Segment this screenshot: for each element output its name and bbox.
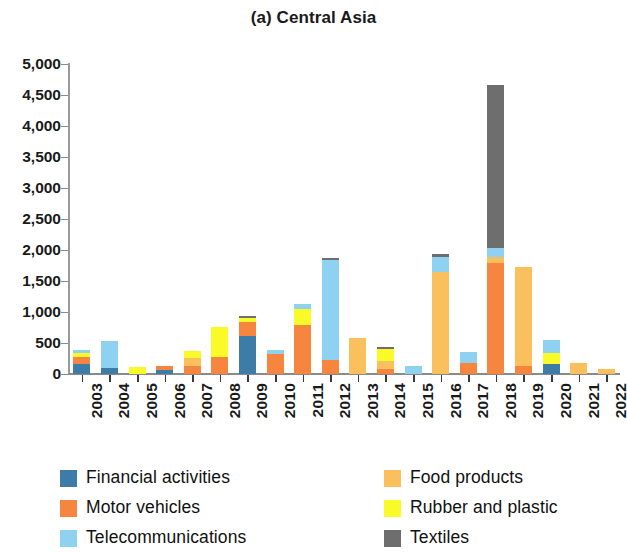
- y-tick-label: 1,000: [1, 303, 61, 321]
- legend-label: Textiles: [410, 529, 469, 547]
- bar-column-2013[interactable]: [349, 64, 366, 374]
- bar-segment[interactable]: [156, 370, 173, 374]
- bar-segment[interactable]: [184, 366, 201, 374]
- bar-segment[interactable]: [598, 369, 615, 374]
- bar-segment[interactable]: [294, 325, 311, 374]
- bar-column-2020[interactable]: [543, 64, 560, 374]
- y-tick-label: 3,000: [1, 179, 61, 197]
- bar-segment[interactable]: [294, 304, 311, 309]
- bar-segment[interactable]: [211, 357, 228, 374]
- bar-segment[interactable]: [460, 352, 477, 363]
- chart-legend: Financial activitiesMotor vehiclesTeleco…: [52, 463, 612, 549]
- legend-item[interactable]: Telecommunications: [60, 523, 335, 553]
- bar-segment[interactable]: [322, 258, 339, 260]
- bar-segment[interactable]: [487, 85, 504, 247]
- legend-item[interactable]: Textiles: [384, 523, 627, 553]
- legend-column-left: Financial activitiesMotor vehiclesTeleco…: [60, 463, 335, 553]
- legend-item[interactable]: Financial activities: [60, 463, 335, 493]
- bar-segment[interactable]: [487, 248, 504, 257]
- bar-segment[interactable]: [73, 364, 90, 374]
- y-tick-label: 4,000: [1, 117, 61, 135]
- bar-segment[interactable]: [101, 341, 118, 368]
- legend-swatch-financial-activities: [60, 470, 77, 487]
- bar-segment[interactable]: [432, 272, 449, 374]
- bar-segment[interactable]: [377, 361, 394, 369]
- bar-segment[interactable]: [239, 322, 256, 336]
- x-tick-label-2006: 2006: [171, 383, 189, 453]
- bar-segment[interactable]: [239, 316, 256, 318]
- bar-column-2015[interactable]: [405, 64, 422, 374]
- bar-segment[interactable]: [515, 267, 532, 366]
- bar-column-2003[interactable]: [73, 64, 90, 374]
- bar-segment[interactable]: [267, 350, 284, 353]
- bar-column-2009[interactable]: [239, 64, 256, 374]
- bar-segment[interactable]: [267, 354, 284, 374]
- bar-segment[interactable]: [211, 327, 228, 357]
- x-tick-mark: [358, 375, 360, 382]
- bar-segment[interactable]: [101, 368, 118, 374]
- bar-column-2004[interactable]: [101, 64, 118, 374]
- bar-column-2014[interactable]: [377, 64, 394, 374]
- x-tick-label-2008: 2008: [226, 383, 244, 453]
- x-tick-mark: [275, 375, 277, 382]
- x-tick-mark: [220, 375, 222, 382]
- bar-segment[interactable]: [405, 366, 422, 374]
- bar-column-2007[interactable]: [184, 64, 201, 374]
- x-tick-mark: [579, 375, 581, 382]
- y-tick-mark: [61, 374, 68, 375]
- bar-segment[interactable]: [570, 363, 587, 374]
- bar-segment[interactable]: [322, 360, 339, 374]
- bar-column-2011[interactable]: [294, 64, 311, 374]
- bar-segment[interactable]: [432, 257, 449, 273]
- bar-segment[interactable]: [129, 367, 146, 374]
- legend-item[interactable]: Food products: [384, 463, 627, 493]
- bar-column-2022[interactable]: [598, 64, 615, 374]
- bar-segment[interactable]: [543, 340, 560, 353]
- bar-segment[interactable]: [184, 358, 201, 366]
- legend-item[interactable]: Rubber and plastic: [384, 493, 627, 523]
- bar-segment[interactable]: [543, 364, 560, 374]
- bar-segment[interactable]: [73, 357, 90, 364]
- x-tick-mark: [303, 375, 305, 382]
- bar-segment[interactable]: [294, 309, 311, 325]
- bar-segment[interactable]: [322, 260, 339, 360]
- bar-column-2010[interactable]: [267, 64, 284, 374]
- bar-segment[interactable]: [543, 353, 560, 364]
- bar-column-2012[interactable]: [322, 64, 339, 374]
- legend-label: Rubber and plastic: [410, 499, 558, 517]
- bar-segment[interactable]: [156, 366, 173, 370]
- y-tick-label: 2,500: [1, 210, 61, 228]
- y-tick-mark: [61, 250, 68, 251]
- bar-column-2005[interactable]: [129, 64, 146, 374]
- bar-column-2019[interactable]: [515, 64, 532, 374]
- bar-segment[interactable]: [349, 338, 366, 374]
- x-tick-label-2019: 2019: [529, 383, 547, 453]
- bar-segment[interactable]: [73, 350, 90, 353]
- bar-segment[interactable]: [432, 254, 449, 256]
- bar-segment[interactable]: [184, 351, 201, 358]
- bar-segment[interactable]: [377, 347, 394, 349]
- x-tick-mark: [247, 375, 249, 382]
- bar-segment[interactable]: [460, 363, 477, 374]
- bar-segment[interactable]: [239, 336, 256, 374]
- bar-column-2017[interactable]: [460, 64, 477, 374]
- bar-column-2008[interactable]: [211, 64, 228, 374]
- x-tick-mark: [330, 375, 332, 382]
- bar-segment[interactable]: [487, 257, 504, 263]
- bar-column-2021[interactable]: [570, 64, 587, 374]
- bar-segment[interactable]: [377, 369, 394, 374]
- bar-segment[interactable]: [239, 318, 256, 322]
- bar-column-2006[interactable]: [156, 64, 173, 374]
- bar-segment[interactable]: [377, 349, 394, 361]
- legend-label: Telecommunications: [86, 529, 246, 547]
- bar-segment[interactable]: [487, 263, 504, 374]
- legend-swatch-food-products: [384, 470, 401, 487]
- bar-segment[interactable]: [515, 366, 532, 374]
- legend-label: Motor vehicles: [86, 499, 200, 517]
- x-tick-mark: [137, 375, 139, 382]
- legend-item[interactable]: Motor vehicles: [60, 493, 335, 523]
- bar-column-2016[interactable]: [432, 64, 449, 374]
- bar-segment[interactable]: [73, 353, 90, 357]
- bar-column-2018[interactable]: [487, 64, 504, 374]
- y-tick-mark: [61, 312, 68, 313]
